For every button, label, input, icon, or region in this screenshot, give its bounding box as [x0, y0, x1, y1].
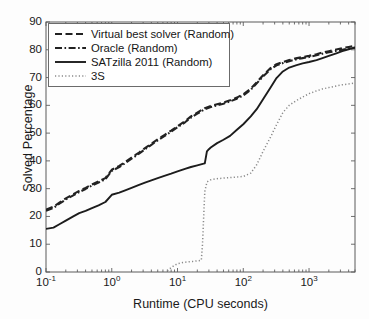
legend-label: Virtual best solver (Random)	[91, 28, 234, 40]
legend-line-swatch-dotted-icon	[54, 70, 87, 82]
x-tick-label: 10-1	[24, 276, 68, 288]
x-tick-label: 100	[90, 276, 134, 288]
chart-legend: Virtual best solver (Random)Oracle (Rand…	[48, 23, 230, 87]
chart-figure: 0102030405060708090 10-1100101102103 Sol…	[0, 0, 369, 319]
legend-item[interactable]: Oracle (Random)	[49, 41, 229, 55]
legend-item[interactable]: SATzilla 2011 (Random)	[49, 55, 229, 69]
legend-item[interactable]: Virtual best solver (Random)	[49, 27, 229, 41]
x-tick-mantissa: 10	[103, 276, 116, 288]
x-tick-exponent: 3	[313, 274, 317, 283]
legend-line-swatch-dashdot-icon	[54, 42, 87, 54]
legend-line-swatch-dashed-icon	[54, 28, 87, 40]
x-axis-title: Runtime (CPU seconds)	[46, 297, 355, 311]
legend-line-swatch-solid-icon	[54, 56, 87, 68]
x-tick-label: 102	[221, 276, 265, 288]
legend-item[interactable]: 3S	[49, 69, 229, 83]
legend-label: 3S	[91, 70, 105, 82]
x-tick-label: 103	[287, 276, 331, 288]
x-tick-label: 101	[156, 276, 200, 288]
x-tick-mantissa: 10	[36, 276, 49, 288]
x-tick-exponent: -1	[49, 274, 56, 283]
y-axis-title: Solved Percentage	[21, 48, 35, 228]
legend-label: Oracle (Random)	[91, 42, 178, 54]
x-tick-mantissa: 10	[235, 276, 248, 288]
x-tick-exponent: 0	[116, 274, 120, 283]
legend-label: SATzilla 2011 (Random)	[91, 56, 212, 68]
x-tick-mantissa: 10	[300, 276, 313, 288]
x-tick-exponent: 2	[247, 274, 251, 283]
x-tick-mantissa: 10	[169, 276, 182, 288]
x-tick-exponent: 1	[182, 274, 186, 283]
